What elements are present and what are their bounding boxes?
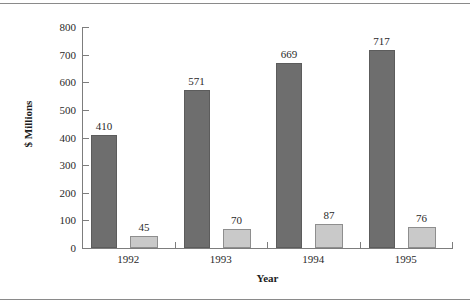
bar-light: [223, 229, 251, 248]
bar-dark: [91, 135, 117, 248]
bar-value-label: 410: [79, 121, 129, 132]
x-axis-tick-label: 1994: [283, 253, 343, 265]
bar-light: [130, 236, 158, 248]
y-axis-tick-label: 600: [36, 77, 76, 88]
y-axis-tick-label: 0: [36, 243, 76, 254]
bar-dark: [184, 90, 210, 248]
y-axis-tick-label: 800: [36, 22, 76, 33]
bar-value-label: 76: [397, 213, 447, 224]
y-axis-title: $ Millions: [22, 79, 34, 169]
y-axis-tick-label: 400: [36, 133, 76, 144]
y-axis-tick-label: 300: [36, 160, 76, 171]
bar-light: [315, 224, 343, 248]
y-axis-tick: [83, 248, 89, 249]
bar-value-label: 669: [264, 49, 314, 60]
bar-value-label: 45: [119, 222, 169, 233]
bar-dark: [369, 50, 395, 248]
chart-figure: 0100200300400500600700800 19921993199419…: [0, 0, 470, 308]
x-axis-title: Year: [82, 272, 453, 284]
y-axis-tick-label: 500: [36, 105, 76, 116]
x-axis-end-tick: [452, 242, 453, 249]
top-divider-rule: [0, 3, 470, 4]
y-axis-tick-label: 700: [36, 50, 76, 61]
plot-area: 41045571706698771776: [82, 27, 452, 248]
y-axis-tick-label: 200: [36, 188, 76, 199]
bar-value-label: 87: [304, 210, 354, 221]
y-axis-tick-label: 100: [36, 215, 76, 226]
bar-value-label: 717: [357, 36, 407, 47]
bar-value-label: 571: [172, 76, 222, 87]
x-axis-tick-label: 1992: [98, 253, 158, 265]
x-axis-tick-label: 1993: [191, 253, 251, 265]
bar-value-label: 70: [212, 215, 262, 226]
bar-light: [408, 227, 436, 248]
bar-dark: [276, 63, 302, 248]
x-axis-tick-label: 1995: [376, 253, 436, 265]
bottom-divider-rule: [0, 299, 470, 300]
